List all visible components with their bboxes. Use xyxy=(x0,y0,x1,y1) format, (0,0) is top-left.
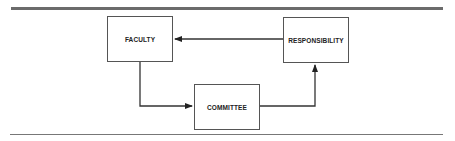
node-label: RESPONSIBILITY xyxy=(288,37,344,44)
arrow-committee-to-responsibility xyxy=(259,65,315,106)
bottom-rule xyxy=(10,134,443,135)
node-responsibility: RESPONSIBILITY xyxy=(283,17,349,63)
arrow-faculty-to-committee xyxy=(140,62,192,106)
node-label: COMMITTEE xyxy=(207,104,247,111)
node-committee: COMMITTEE xyxy=(194,84,260,130)
node-faculty: FACULTY xyxy=(107,16,173,62)
node-label: FACULTY xyxy=(125,36,155,43)
